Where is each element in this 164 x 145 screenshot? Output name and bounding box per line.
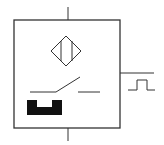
pulse-output-icon xyxy=(128,80,155,90)
inductive-coil-icon xyxy=(51,36,81,66)
normally-open-contact xyxy=(30,77,100,92)
proximity-sensor-diagram xyxy=(0,0,164,145)
target-actuator xyxy=(27,100,62,115)
